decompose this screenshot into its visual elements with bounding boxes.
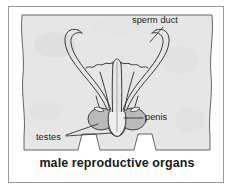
label-penis: penis (145, 112, 167, 122)
label-sperm-duct: sperm duct (132, 15, 178, 25)
figure-caption: male reproductive organs (0, 156, 234, 170)
figure-root: sperm duct penis testes male reproductiv… (0, 0, 234, 191)
label-testes: testes (36, 132, 61, 142)
